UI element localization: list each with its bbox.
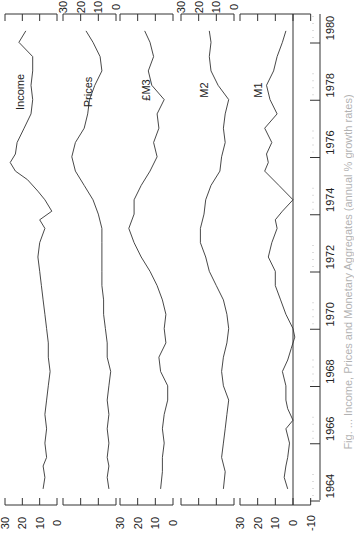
value-tick-label: 0 — [110, 4, 122, 10]
year-tick-label: 1966 — [324, 417, 336, 441]
year-tick-label: 1968 — [324, 359, 336, 383]
year-tick-label: 1978 — [324, 73, 336, 97]
year-tick-label: 1964 — [324, 474, 336, 498]
value-tick-label: 30 — [234, 517, 246, 529]
series-label-m3: £M3 — [140, 79, 152, 100]
labels-layer: Income Prices £M3 M2 M1 — [14, 74, 264, 110]
value-tick-label: 20 — [16, 517, 28, 529]
value-tick-label: 0 — [51, 520, 63, 526]
value-tick-label: 0 — [228, 4, 240, 10]
axes-layer: 1964196619681970197219741976197819803020… — [0, 1, 354, 531]
value-tick-label: 10 — [210, 1, 222, 13]
value-tick-label: 10 — [269, 517, 281, 529]
year-tick-label: 1974 — [324, 188, 336, 212]
year-tick-label: 1970 — [324, 302, 336, 326]
year-tick-label: 1980 — [324, 16, 336, 40]
series-label-prices: Prices — [82, 76, 94, 107]
value-tick-label: 20 — [193, 1, 205, 13]
value-tick-label: 30 — [0, 517, 11, 529]
value-tick-label: 0 — [167, 520, 179, 526]
value-tick-label: 10 — [92, 1, 104, 13]
series-label-m2: M2 — [198, 82, 210, 97]
value-tick-label: 20 — [132, 517, 144, 529]
value-tick-label: 20 — [252, 517, 264, 529]
series-label-m1: M1 — [252, 82, 264, 97]
value-tick-label: 30 — [57, 1, 69, 13]
value-tick-label: 30 — [175, 1, 187, 13]
value-tick-label: 0 — [287, 520, 299, 526]
series-line-m1 — [265, 31, 295, 489]
year-tick-label: 1972 — [324, 245, 336, 269]
series-line-m2 — [200, 31, 228, 489]
value-tick-label: 10 — [34, 517, 46, 529]
value-tick-label: 10 — [149, 517, 161, 529]
value-tick-label: -10 — [305, 515, 317, 531]
series-layer — [10, 31, 295, 489]
series-label-income: Income — [14, 74, 26, 110]
value-tick-label: 20 — [75, 1, 87, 13]
figure-caption: Fig. ... Income, Prices and Monetary Agg… — [342, 94, 354, 449]
multi-panel-line-chart: 1964196619681970197219741976197819803020… — [0, 0, 359, 544]
value-tick-label: 30 — [114, 517, 126, 529]
year-tick-label: 1976 — [324, 130, 336, 154]
